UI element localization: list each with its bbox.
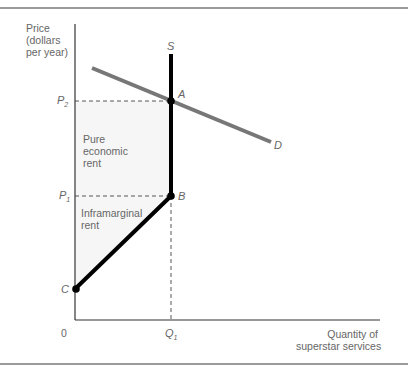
pure-economic-rent-label: Pure economic rent [83, 133, 128, 169]
origin-label: 0 [61, 327, 67, 339]
curve-s-label: S [167, 40, 174, 52]
rent-shade [76, 101, 171, 289]
p2-tick-label: P2 [57, 94, 68, 111]
point-a-label: A [178, 88, 185, 100]
curve-d-label: D [274, 139, 282, 151]
point-c-marker [72, 285, 80, 293]
y-axis-title: Price (dollars per year) [26, 22, 68, 58]
point-b-label: B [178, 190, 185, 202]
q1-tick-label: Q1 [165, 327, 177, 344]
point-a-marker [167, 97, 175, 105]
x-axis-title: Quantity of superstar services [296, 328, 378, 352]
point-b-marker [167, 192, 175, 200]
inframarginal-rent-label: Inframarginal rent [81, 207, 142, 231]
point-c-label: C [61, 283, 69, 295]
p1-tick-label: P1 [59, 189, 70, 206]
